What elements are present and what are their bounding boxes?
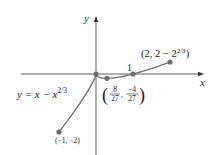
paren-close: ) <box>139 85 145 106</box>
frac-x-num: 8 <box>113 85 117 94</box>
x-axis-label: x <box>199 76 205 88</box>
equation-lhs: y = x − x <box>16 88 58 100</box>
point-local-min <box>104 76 109 81</box>
y-axis-label: y <box>83 12 89 24</box>
point-right-endpoint <box>167 59 172 64</box>
frac-x-den: 27 <box>111 94 119 103</box>
frac-y-den: 27 <box>128 94 136 103</box>
local-min-label: ( 8 27 , −4 27 ) <box>102 85 145 106</box>
comma: , <box>121 90 123 99</box>
right-endpoint-base: (2, 2 − 2 <box>141 48 177 60</box>
right-endpoint-label: (2, 2 − 22/3) <box>141 47 190 61</box>
equation-label: y = x − x2/3 <box>16 86 67 100</box>
tick-label-1: 1 <box>127 62 132 73</box>
paren-open: ( <box>102 85 108 106</box>
right-endpoint-close: ) <box>186 48 190 60</box>
frac-y-num: −4 <box>128 85 136 94</box>
function-graph: y x 1 y = x − x2/3 (2, 2 − 22/3) ( 8 27 … <box>0 0 219 155</box>
point-origin <box>93 71 98 76</box>
y-axis-arrow-icon <box>94 16 98 22</box>
point-left-endpoint <box>56 129 61 134</box>
equation-exponent: 2/3 <box>58 86 68 95</box>
left-endpoint-label: (−1, −2) <box>55 136 80 145</box>
